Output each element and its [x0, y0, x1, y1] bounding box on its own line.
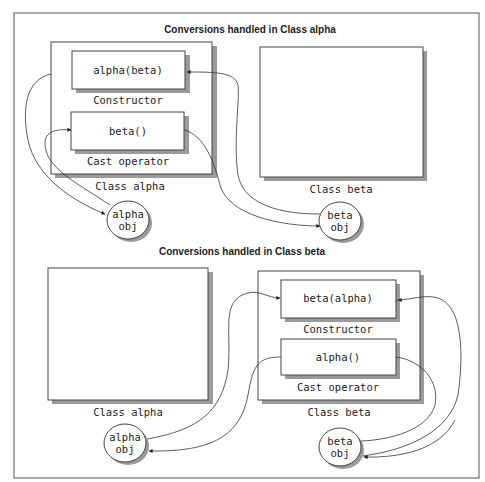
svg-text:obj: obj [119, 220, 138, 232]
top-cast-operator-code: beta() [109, 125, 147, 137]
svg-text:alpha: alpha [109, 431, 141, 443]
bottom-section-title: Conversions handled in Class beta [159, 246, 326, 257]
svg-text:beta: beta [327, 435, 352, 447]
top-class-beta [260, 47, 427, 181]
svg-text:obj: obj [116, 443, 135, 455]
bottom-class-alpha [48, 268, 213, 404]
top-class-alpha-label: Class alpha [95, 180, 165, 192]
svg-text:obj: obj [331, 447, 350, 459]
bottom-constructor-code: beta(alpha) [303, 292, 373, 304]
top-cast-operator-caption: Cast operator [87, 155, 169, 167]
svg-text:beta: beta [327, 209, 352, 221]
bottom-cast-operator-caption: Cast operator [297, 381, 379, 393]
bottom-class-beta-label: Class beta [307, 406, 370, 418]
bottom-class-beta: beta(alpha) Constructor alpha() Cast ope… [258, 271, 424, 404]
top-constructor-caption: Constructor [93, 94, 163, 106]
top-section-title: Conversions handled in Class alpha [164, 24, 336, 35]
bottom-constructor-caption: Constructor [303, 323, 373, 335]
bottom-class-alpha-label: Class alpha [93, 406, 163, 418]
svg-text:obj: obj [331, 221, 350, 233]
top-constructor-code: alpha(beta) [93, 64, 163, 76]
svg-text:alpha: alpha [112, 208, 144, 220]
conversion-diagram: Conversions handled in Class alpha alpha… [0, 0, 485, 482]
bottom-cast-operator-code: alpha() [316, 351, 360, 363]
top-class-alpha: alpha(beta) Constructor beta() Cast oper… [51, 42, 217, 178]
top-class-beta-label: Class beta [309, 183, 372, 195]
